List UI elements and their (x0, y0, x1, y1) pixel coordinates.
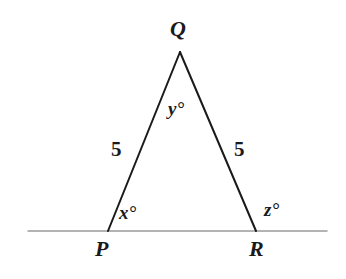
side-length-label-right: 5 (234, 139, 245, 160)
angle-label-base-x: x° (119, 203, 136, 222)
vertex-label-q: Q (170, 18, 186, 40)
side-length-label-left: 5 (111, 139, 122, 160)
geometry-canvas (0, 0, 346, 279)
triangle-side-qr (180, 52, 256, 231)
vertex-label-p: P (95, 238, 108, 260)
vertex-label-r: R (249, 238, 264, 260)
geometry-figure: Q P R y° x° z° 5 5 (0, 0, 346, 279)
angle-label-apex-y: y° (168, 99, 184, 118)
angle-label-exterior-z: z° (264, 200, 279, 219)
